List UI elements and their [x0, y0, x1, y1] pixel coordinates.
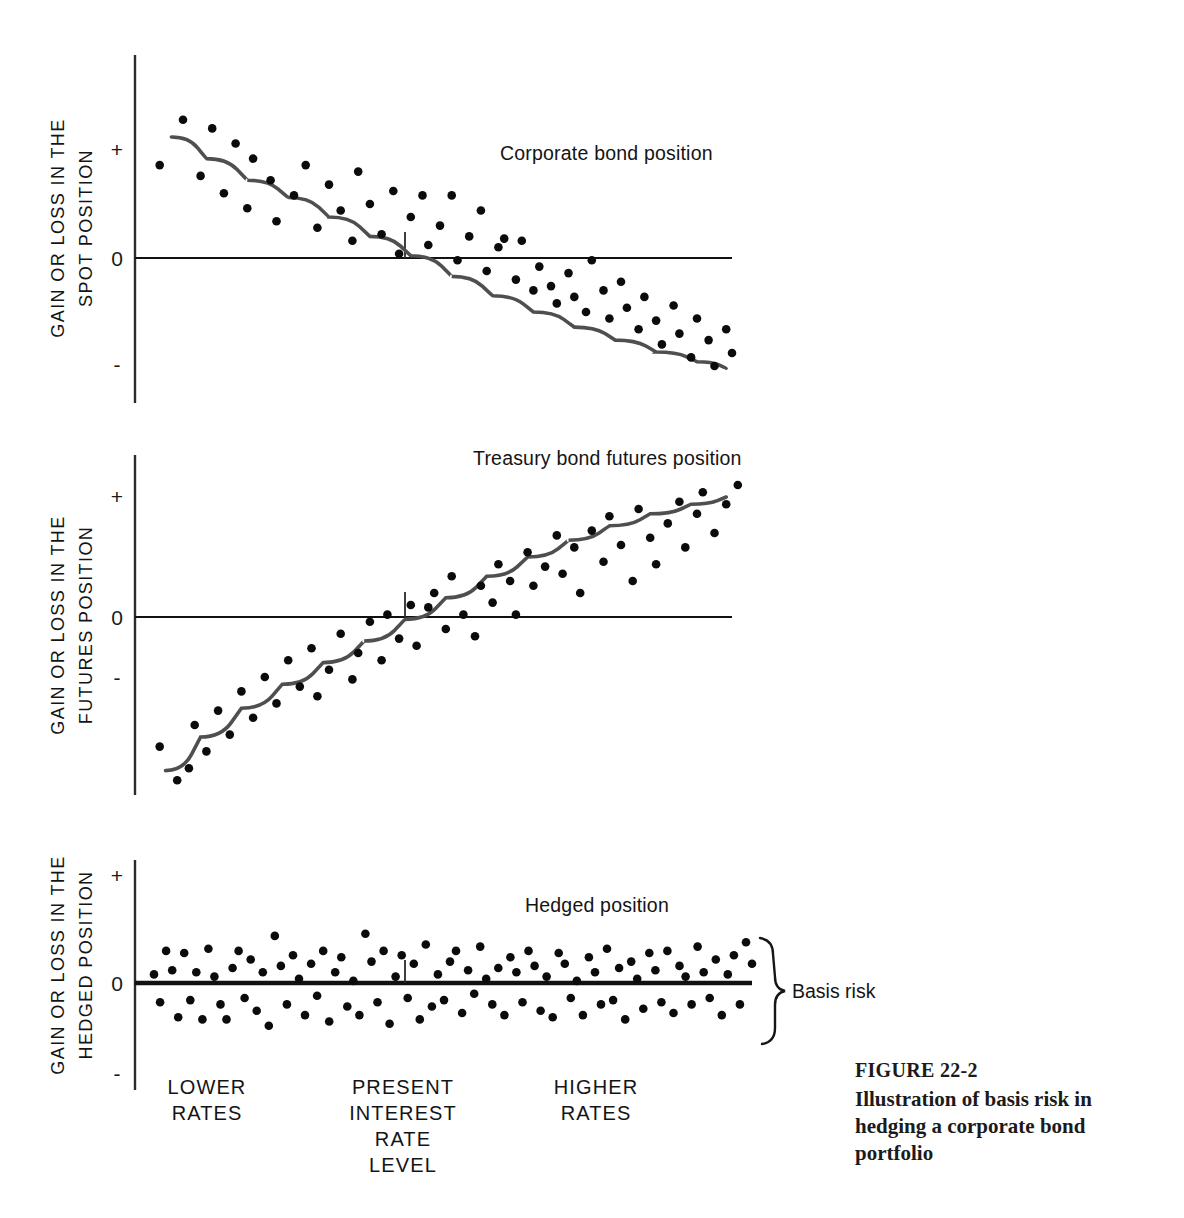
data-point	[214, 706, 223, 715]
data-point	[500, 1011, 509, 1020]
data-point	[307, 644, 316, 653]
data-point	[518, 236, 527, 245]
data-point	[736, 1000, 745, 1009]
data-point	[349, 977, 358, 986]
data-point	[553, 299, 562, 308]
category-label-lower: LOWER	[168, 1076, 247, 1098]
data-point	[174, 1013, 183, 1022]
scatter-points	[155, 481, 742, 785]
data-point	[313, 224, 322, 233]
y-tick-plus: +	[111, 138, 123, 161]
data-point	[231, 139, 240, 148]
y-axis-title-line2: HEDGED POSITION	[76, 870, 96, 1059]
data-point	[699, 488, 708, 497]
data-point	[343, 1002, 352, 1011]
data-point	[261, 673, 270, 682]
data-point	[447, 191, 456, 200]
data-point	[494, 964, 503, 973]
data-point	[681, 972, 690, 981]
data-point	[436, 221, 445, 230]
y-tick-zero: 0	[111, 606, 123, 629]
data-point	[588, 256, 597, 265]
data-point	[542, 972, 551, 981]
data-point	[204, 945, 213, 954]
data-point	[687, 1000, 696, 1009]
data-point	[570, 543, 579, 552]
data-point	[693, 510, 702, 519]
data-point	[337, 953, 346, 962]
data-point	[210, 972, 219, 981]
data-point	[296, 682, 305, 691]
basis-risk-figure: +0-Corporate bond positionGAIN OR LOSS I…	[0, 0, 1184, 1218]
category-label-higher: RATES	[561, 1102, 632, 1124]
data-point	[434, 970, 443, 979]
data-point	[422, 940, 431, 949]
data-point	[186, 996, 195, 1005]
y-axis-title-line1: GAIN OR LOSS IN THE	[48, 855, 68, 1074]
data-point	[336, 206, 345, 215]
y-tick-minus: -	[114, 666, 121, 689]
data-point	[699, 968, 708, 977]
data-point	[639, 1004, 648, 1013]
data-point	[252, 1007, 261, 1016]
figure-number: FIGURE 22-2	[855, 1058, 1155, 1084]
data-point	[289, 951, 298, 960]
data-point	[529, 582, 538, 591]
data-point	[652, 560, 661, 569]
data-point	[389, 187, 398, 196]
data-point	[535, 262, 544, 271]
data-point	[265, 1022, 274, 1031]
y-tick-plus: +	[111, 864, 123, 887]
category-label-present: PRESENT	[352, 1076, 454, 1098]
y-axis-title-line2: FUTURES POSITION	[76, 526, 96, 724]
data-point	[180, 949, 189, 958]
data-point	[354, 649, 363, 658]
data-point	[162, 947, 171, 956]
data-point	[669, 1009, 678, 1018]
data-point	[190, 721, 199, 730]
data-point	[482, 267, 491, 276]
data-point	[599, 286, 608, 295]
data-point	[599, 558, 608, 567]
data-point	[412, 642, 421, 651]
y-axis-title: GAIN OR LOSS IN THESPOT POSITION	[48, 118, 96, 337]
data-point	[331, 968, 340, 977]
data-point	[722, 500, 731, 509]
panel-title-treasury-bond-futures-position: Treasury bond futures position	[473, 447, 742, 469]
data-point	[416, 1015, 425, 1024]
data-point	[623, 303, 632, 312]
basis-risk-brace-group: Basis risk	[760, 938, 876, 1044]
data-point	[617, 278, 626, 287]
data-point	[428, 1002, 437, 1011]
basis-risk-label: Basis risk	[792, 980, 876, 1002]
data-point	[518, 998, 527, 1007]
data-point	[471, 632, 480, 641]
data-point	[488, 1000, 497, 1009]
data-point	[179, 116, 188, 125]
data-point	[615, 964, 624, 973]
y-tick-plus: +	[111, 485, 123, 508]
data-point	[500, 234, 509, 243]
data-point	[704, 336, 713, 345]
data-point	[591, 968, 600, 977]
data-point	[354, 167, 363, 176]
data-point	[687, 353, 696, 362]
data-point	[640, 293, 649, 302]
data-point	[730, 951, 739, 960]
data-point	[605, 314, 614, 323]
data-point	[651, 966, 660, 975]
data-point	[564, 269, 573, 278]
data-point	[240, 994, 249, 1003]
data-point	[722, 325, 731, 334]
data-point	[465, 232, 474, 241]
data-point	[470, 989, 479, 998]
data-point	[453, 256, 462, 265]
data-point	[196, 172, 205, 181]
panel-title-hedged-position: Hedged position	[525, 894, 669, 916]
data-point	[391, 972, 400, 981]
data-point	[634, 505, 643, 514]
y-axis-title-line1: GAIN OR LOSS IN THE	[48, 118, 68, 337]
data-point	[658, 340, 667, 349]
data-point	[494, 243, 503, 252]
data-point	[272, 217, 281, 226]
